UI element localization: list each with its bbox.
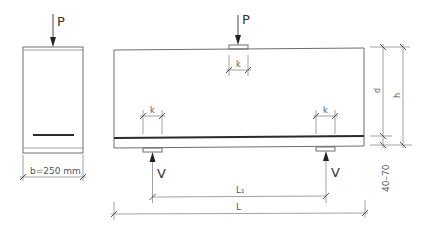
left-support-plate: [143, 148, 162, 152]
cross-section: P b=250 mm: [20, 14, 86, 181]
section-load-label: P: [57, 14, 65, 29]
cover-label: 40–70: [381, 164, 391, 192]
effective-depth-label: d: [373, 88, 382, 93]
depth-dimensions: [370, 44, 412, 148]
beam-elevation: P k k k: [111, 12, 412, 220]
top-load-plate: [229, 45, 248, 49]
right-plate-width-label: k: [323, 106, 328, 115]
total-length-label: L: [236, 202, 241, 212]
height-label: h: [393, 93, 402, 98]
load-arrow-icon: [50, 14, 56, 47]
top-plate-width-label: k: [236, 60, 241, 69]
beam-rebar: [114, 136, 364, 138]
section-outline: [23, 47, 83, 153]
right-reaction-arrow-icon: [323, 151, 329, 203]
top-load-label: P: [242, 12, 250, 27]
right-support-plate: [316, 147, 335, 151]
left-reaction-label: V: [157, 166, 166, 181]
top-load-arrow-icon: [235, 15, 241, 45]
section-width-label: b=250 mm: [30, 166, 81, 176]
span-label: L₁: [236, 185, 245, 195]
right-reaction-label: V: [331, 165, 340, 180]
left-plate-width-label: k: [150, 106, 155, 115]
beam-diagram: P b=250 mm P: [0, 0, 430, 233]
